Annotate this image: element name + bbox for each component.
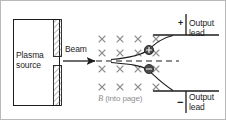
field-mark-x xyxy=(135,84,141,90)
magnetic-field-label: B (into page) xyxy=(98,94,142,104)
top-output-lead-label-line1: Output xyxy=(189,18,214,28)
field-mark-x xyxy=(99,36,105,42)
plasma-source-label: Plasmasource xyxy=(16,51,56,70)
top-output-lead-label-line2: lead xyxy=(189,28,205,38)
field-mark-x xyxy=(135,36,141,42)
field-mark-x xyxy=(153,84,159,90)
field-mark-x xyxy=(99,84,105,90)
bottom-polarity-label: − xyxy=(177,98,183,107)
bottom-output-lead-label: Outputlead xyxy=(189,93,226,112)
bottom-output-lead-label-line2: lead xyxy=(189,102,205,112)
wall-hatch-lower xyxy=(54,66,62,106)
top-output-lead-label: Outputlead xyxy=(189,19,226,38)
plasma-source-label-line2: source xyxy=(16,60,41,70)
field-mark-x xyxy=(153,36,159,42)
field-mark-x xyxy=(117,84,123,90)
plasma-source-label-line1: Plasma xyxy=(16,50,44,60)
field-mark-x xyxy=(99,66,105,72)
bottom-output-lead-label-line1: Output xyxy=(189,92,214,102)
field-mark-x xyxy=(117,66,123,72)
field-mark-x xyxy=(117,50,123,56)
field-mark-x xyxy=(99,50,105,56)
field-mark-x xyxy=(117,36,123,42)
top-polarity-label: + xyxy=(178,19,183,29)
physics-diagram-plasma-generator: Plasmasource Beam + Outputlead − Outputl… xyxy=(0,0,226,120)
magnetic-field-marks xyxy=(99,36,159,90)
beam-label: Beam xyxy=(65,45,87,55)
magnetic-field-direction-text: (into page) xyxy=(103,94,142,103)
